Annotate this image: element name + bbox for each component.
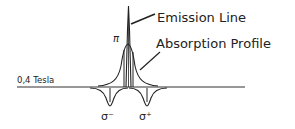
absorption-label: Absorption Profile	[156, 36, 271, 51]
absorption-leader	[140, 52, 160, 70]
pi-label: π	[113, 33, 120, 44]
sigma-plus-label: σ⁺	[139, 110, 152, 123]
absorption-profile-pi	[98, 44, 158, 86]
emission-label: Emission Line	[157, 10, 246, 25]
field-label: 0,4 Tesla	[17, 75, 54, 85]
sigma-plus-profile	[129, 88, 167, 106]
emission-leader	[131, 14, 155, 24]
sigma-minus-profile	[90, 88, 128, 106]
sigma-minus-label: σ⁻	[101, 110, 114, 123]
zeeman-diagram: Emission Line Absorption Profile π 0,4 T…	[0, 0, 295, 129]
